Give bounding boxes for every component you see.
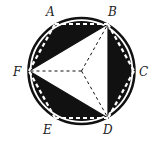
label-f: F [13,66,21,78]
label-e: E [43,124,52,136]
geometry-diagram: A B C D E F [0,0,159,144]
label-a: A [46,6,55,18]
label-b: B [108,6,117,18]
circle-hexagon-figure [0,0,159,144]
label-d: D [103,124,113,136]
label-c: C [139,66,148,78]
